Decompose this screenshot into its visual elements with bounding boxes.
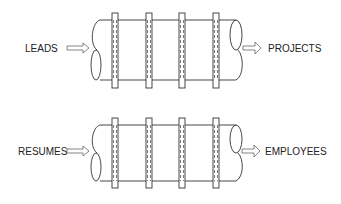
output-arrow-icon [242, 145, 260, 157]
pipe-right-ellipse [230, 20, 242, 50]
pipeline-resumes-employees: RESUMES EMPLOYEES [18, 118, 327, 188]
pipe-right-end [236, 50, 242, 80]
pipe-left-end [92, 20, 100, 50]
pipeline-leads-projects: LEADS PROJECTS [25, 13, 322, 88]
pipeline-diagram: LEADS PROJECTS RESUMES [0, 0, 341, 204]
output-arrow-icon [243, 42, 261, 54]
stage-rings [112, 13, 219, 88]
output-label-projects: PROJECTS [268, 43, 322, 54]
input-label-resumes: RESUMES [18, 146, 68, 157]
pipe-left-ellipse [91, 153, 101, 181]
pipe-right-end [236, 153, 242, 181]
stage-rings [112, 118, 219, 188]
pipe-left-ellipse [91, 50, 101, 80]
output-label-employees: EMPLOYEES [265, 146, 327, 157]
pipe-left-end [92, 125, 100, 153]
input-label-leads: LEADS [25, 43, 58, 54]
input-arrow-icon [67, 146, 89, 156]
input-arrow-icon [67, 43, 89, 53]
pipe-right-ellipse [230, 125, 242, 153]
